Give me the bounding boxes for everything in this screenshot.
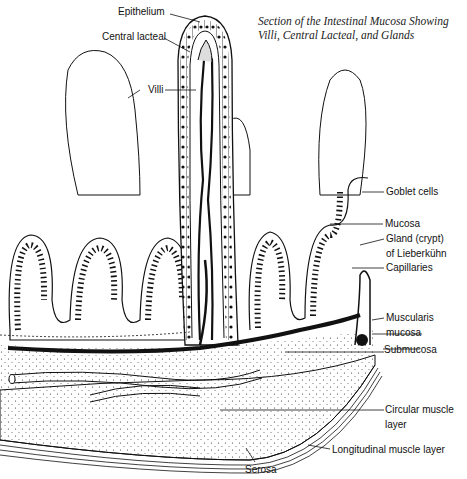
figure-title-line2: Villi, Central Lacteal, and Glands [258,28,449,42]
label-mucosa: Mucosa [385,218,420,230]
label-submucosa: Submucosa [384,344,437,356]
label-capillaries: Capillaries [386,262,433,274]
central-villus [178,16,238,345]
label-central-lacteal: Central lacteal [102,31,166,43]
label-villi: Villi [148,84,163,96]
label-serosa: Serosa [245,464,277,476]
figure-title-line1: Section of the Intestinal Mucosa Showing [258,14,449,28]
label-circular-line2: layer [385,419,407,431]
label-gland-line1: Gland (crypt) [386,233,444,245]
label-epithelium: Epithelium [118,6,165,18]
label-circular-line1: Circular muscle [385,404,454,416]
label-longitudinal: Longitudinal muscle layer [332,444,445,456]
label-gland-line2: of Lieberkühn [386,248,447,260]
label-muscularis-line1: Muscularis [386,312,434,324]
figure-title: Section of the Intestinal Mucosa Showing… [258,14,449,42]
label-goblet-cells: Goblet cells [386,186,438,198]
label-muscularis-line2: mucosa [386,327,421,339]
